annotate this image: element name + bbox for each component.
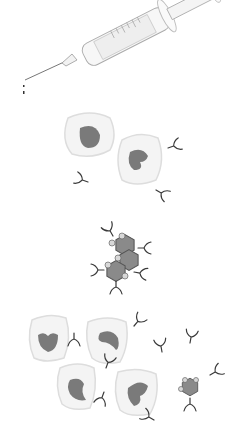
illustration-canvas [0, 0, 236, 432]
immune-cells-group-1 [65, 113, 182, 202]
immune-cells-group-2 [29, 312, 224, 425]
vaccine-diagram [0, 0, 236, 432]
virus-antibody-complex [91, 222, 151, 294]
syringe-icon [23, 0, 226, 94]
